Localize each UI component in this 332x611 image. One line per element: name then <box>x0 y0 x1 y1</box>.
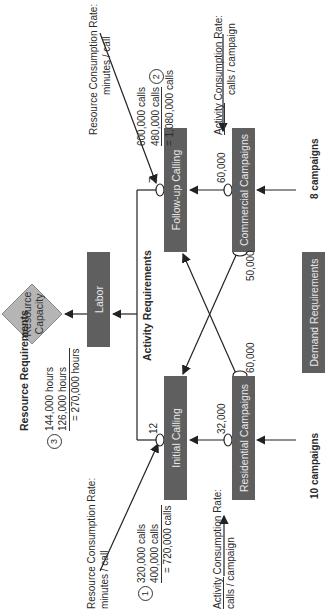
calc3-values: 144,000 hours 126,000 hours = 270,000 ho… <box>44 348 83 431</box>
followup-rate: 7 <box>148 177 161 183</box>
residential-followup-rate: 60,000 <box>245 342 258 373</box>
commercial-demand: 8 campaigns <box>309 138 322 199</box>
initial-calling-box: Initial Calling <box>164 376 187 500</box>
commercial-campaigns-label: Commercial Campaigns <box>238 134 250 246</box>
port-commercial <box>224 184 232 196</box>
commercial-initial-rate: 50,000 <box>245 250 258 281</box>
demand-requirements-label: Demand Requirements <box>308 259 320 367</box>
initial-calling-label: Initial Calling <box>170 408 182 468</box>
port-followup <box>156 184 164 196</box>
commercial-followup-rate: 60,000 <box>216 152 229 183</box>
rcr-annotation-initial: Resource Consumption Rate: minutes / cal… <box>86 478 111 609</box>
residential-demand: 10 campaigns <box>309 433 322 499</box>
port-initial <box>156 434 164 446</box>
commercial-campaigns-box: Commercial Campaigns <box>232 128 255 252</box>
labor-label: Labor <box>93 286 105 313</box>
port-residential <box>224 434 232 446</box>
acr-annotation-commercial: Activity Consumption Rate: calls / campa… <box>213 15 238 135</box>
labor-box: Labor <box>87 252 110 347</box>
residential-initial-rate: 32,000 <box>216 403 229 434</box>
residential-campaigns-box: Residential Campaigns <box>232 376 255 500</box>
rcr-annotation-followup: Resource Consumption Rate: minutes / cal… <box>88 4 113 135</box>
initial-rate: 12 <box>148 423 161 434</box>
resource-requirements-title: Resource Requirements <box>18 310 31 431</box>
followup-calling-label: Follow-up Calling <box>170 150 182 231</box>
calc-initial-calls: 1 <box>138 586 153 601</box>
residential-campaigns-label: Residential Campaigns <box>238 384 250 492</box>
followup-calling-box: Follow-up Calling <box>164 128 187 252</box>
demand-requirements-box: Demand Requirements <box>302 252 325 373</box>
calc1-values: 320,000 calls 400,000 calls = 720,000 ca… <box>136 505 175 583</box>
calc-hours: 3 <box>47 434 62 449</box>
acr-annotation-residential: Activity Consumption Rate: calls / campa… <box>212 489 237 609</box>
diagram-canvas: Labor Initial Calling Follow-up Calling … <box>0 0 332 611</box>
activity-requirements-title: Activity Requirements <box>141 250 154 361</box>
calc2-values: 600,000 calls 480,000 calls 2 = 1,080,00… <box>136 69 176 146</box>
